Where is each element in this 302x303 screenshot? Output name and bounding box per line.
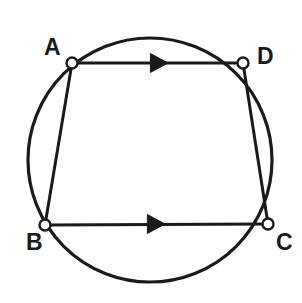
vertex-label-c: C xyxy=(276,231,293,254)
vertex-label-d: D xyxy=(257,45,274,68)
circumscribed-circle xyxy=(28,38,272,282)
chord-dc xyxy=(243,63,268,224)
arrow-bc-icon xyxy=(147,215,165,234)
arrow-ad-icon xyxy=(150,54,168,73)
vertex-marker-d xyxy=(238,58,249,69)
vertex-label-a: A xyxy=(44,36,61,59)
geometry-diagram: A D B C xyxy=(0,0,302,303)
chord-ab xyxy=(45,63,72,225)
vertex-marker-c xyxy=(263,219,274,230)
vertex-marker-a xyxy=(67,58,78,69)
vertex-label-b: B xyxy=(26,231,43,254)
